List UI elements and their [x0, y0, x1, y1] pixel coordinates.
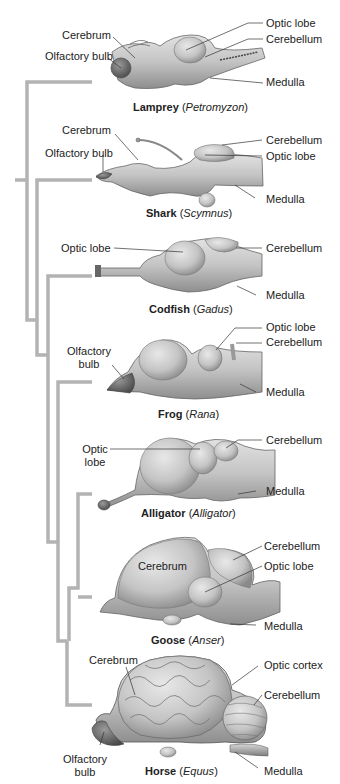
label-codfish-medulla: Medulla [266, 289, 305, 302]
label-shark-cerebrum: Cerebrum [62, 124, 111, 137]
label-horse-optic-cortex: Optic cortex [264, 659, 323, 672]
label-goose-cerebrum: Cerebrum [138, 560, 187, 573]
label-frog-medulla: Medulla [266, 386, 305, 399]
label-alligator-cerebellum: Cerebellum [266, 434, 322, 447]
codfish-brain [95, 237, 262, 292]
label-lamprey-optic-lobe: Optic lobe [266, 17, 316, 30]
label-shark-medulla: Medulla [266, 193, 305, 206]
phylogenetic-tree [15, 82, 92, 705]
label-lamprey-cerebrum: Cerebrum [62, 29, 111, 42]
label-frog-cerebellum: Cerebellum [266, 336, 322, 349]
caption-goose: Goose (Anser) [151, 634, 224, 647]
label-lamprey-olfactory-bulb: Olfactory bulb [45, 50, 113, 63]
label-goose-medulla: Medulla [264, 620, 303, 633]
label-codfish-cerebellum: Cerebellum [266, 242, 322, 255]
caption-codfish: Codfish (Gadus) [149, 303, 233, 316]
label-alligator-medulla: Medulla [266, 485, 305, 498]
label-horse-olfactory-bulb: Olfactorybulb [60, 753, 110, 779]
caption-horse: Horse (Equus) [145, 765, 218, 778]
label-horse-cerebellum: Cerebellum [264, 689, 320, 702]
label-lamprey-medulla: Medulla [266, 76, 305, 89]
label-lamprey-cerebellum: Cerebellum [266, 33, 322, 46]
horse-brain [92, 656, 268, 757]
label-frog-optic-lobe: Optic lobe [266, 321, 316, 334]
label-horse-cerebrum: Cerebrum [89, 654, 138, 667]
label-goose-cerebellum: Cerebellum [264, 540, 320, 553]
label-alligator-optic-lobe: Opticlobe [80, 443, 110, 469]
label-codfish-optic-lobe: Optic lobe [61, 242, 111, 255]
caption-shark: Shark (Scymnus) [146, 207, 232, 220]
shark-brain [96, 138, 263, 207]
label-horse-medulla: Medulla [264, 765, 303, 778]
caption-alligator: Alligator (Alligator) [141, 507, 236, 520]
frog-brain [107, 340, 262, 399]
label-shark-optic-lobe: Optic lobe [266, 150, 316, 163]
lamprey-brain [111, 35, 265, 89]
label-frog-olfactory-bulb: Olfactorybulb [64, 345, 114, 371]
label-goose-optic-lobe: Optic lobe [264, 560, 314, 573]
caption-frog: Frog (Rana) [158, 408, 219, 421]
label-shark-cerebellum: Cerebellum [266, 134, 322, 147]
caption-lamprey: Lamprey (Petromyzon) [133, 101, 248, 114]
label-shark-olfactory-bulb: Olfactory bulb [45, 147, 113, 160]
